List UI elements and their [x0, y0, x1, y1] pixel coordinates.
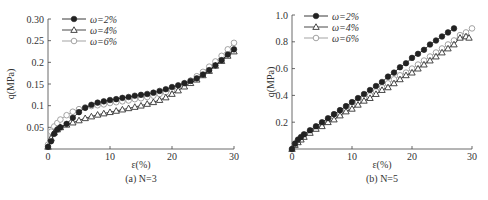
data-point-marker [409, 55, 415, 61]
data-point-marker [126, 94, 132, 100]
data-point-marker [169, 84, 175, 90]
data-point-marker [313, 123, 319, 129]
data-point-marker [138, 92, 144, 98]
legend-label: ω=2% [90, 14, 117, 25]
data-point-marker [113, 96, 119, 102]
data-point-marker [451, 26, 457, 32]
y-tick-label: 0.05 [27, 122, 45, 133]
data-point-marker [144, 91, 150, 97]
data-point-marker [379, 79, 385, 85]
legend-item: ω=2% [304, 11, 359, 22]
data-point-marker [361, 91, 367, 97]
y-tick-label: 0.1 [32, 100, 45, 111]
data-point-marker [433, 38, 439, 44]
data-point-marker [325, 115, 331, 121]
data-point-marker [82, 105, 88, 111]
data-point-marker [76, 109, 82, 115]
y-tick-label: 0.2 [32, 57, 45, 68]
legend-label: ω=6% [90, 36, 117, 47]
data-point-marker [206, 67, 212, 73]
data-point-marker [355, 95, 361, 101]
x-tick-label: 20 [167, 151, 177, 162]
data-point-marker [343, 103, 349, 109]
data-point-marker [385, 74, 391, 80]
panel-b-chart: 01020300.20.40.60.81.0 ω=2%ω=4%ω=6% ε(%)… [265, 10, 477, 186]
data-point-marker [373, 83, 379, 89]
panel-a-series [45, 40, 237, 150]
data-point-marker [213, 63, 219, 69]
x-tick-label: 10 [347, 151, 357, 162]
data-point-marker [64, 112, 70, 118]
data-point-marker [157, 88, 163, 94]
legend-item: ω=6% [62, 36, 117, 47]
data-point-marker [156, 97, 162, 103]
legend-label: ω=2% [332, 11, 359, 22]
figure: 01020300.050.10.150.20.250.30 ω=2%ω=4%ω=… [0, 0, 488, 200]
panel-b-legend: ω=2%ω=4%ω=6% [304, 11, 359, 44]
x-tick-label: 10 [105, 151, 115, 162]
data-point-marker [70, 109, 76, 115]
data-point-marker [391, 70, 397, 76]
x-tick-label: 30 [229, 151, 239, 162]
data-point-marker [89, 102, 95, 108]
panel-a-axes: 01020300.050.10.150.20.250.30 [27, 14, 240, 163]
panel-b-ylabel: q(MPa) [265, 67, 277, 98]
y-tick-label: 0.2 [276, 117, 289, 128]
data-point-marker [194, 76, 200, 82]
data-point-marker [415, 51, 421, 57]
data-point-marker [101, 99, 107, 105]
x-tick-label: 20 [407, 151, 417, 162]
data-point-marker [188, 78, 194, 84]
panel-a-legend: ω=2%ω=4%ω=6% [62, 14, 117, 47]
data-point-marker [445, 30, 451, 36]
data-point-marker [439, 34, 445, 40]
legend-item: ω=6% [304, 33, 359, 44]
data-point-marker [219, 57, 225, 63]
data-point-marker [231, 40, 237, 46]
y-tick-label: 0.25 [27, 35, 45, 46]
data-point-marker [231, 47, 237, 53]
data-point-marker [337, 107, 343, 113]
x-tick-label: 0 [46, 151, 51, 162]
data-point-marker [107, 97, 113, 103]
data-point-marker [367, 87, 373, 93]
data-point-marker [175, 83, 181, 89]
data-point-marker [421, 47, 427, 53]
legend-label: ω=6% [332, 33, 359, 44]
y-tick-label: 0.8 [276, 36, 289, 47]
data-point-marker [64, 121, 70, 127]
data-point-marker [427, 42, 433, 48]
panel-b-series [289, 26, 475, 152]
legend-item: ω=2% [62, 14, 117, 25]
panel-a-xlabel: ε(%) [131, 159, 150, 171]
data-point-marker [151, 90, 157, 96]
data-point-marker [120, 95, 126, 101]
data-point-marker [331, 111, 337, 117]
y-tick-label: 1.0 [276, 10, 289, 21]
legend-marker-icon [313, 35, 319, 41]
data-point-marker [45, 144, 51, 150]
data-point-marker [58, 117, 64, 123]
data-point-marker [307, 127, 313, 133]
legend-item: ω=4% [304, 22, 359, 33]
y-tick-label: 0.4 [276, 90, 289, 101]
data-point-marker [70, 115, 76, 121]
panel-a-chart: 01020300.050.10.150.20.250.30 ω=2%ω=4%ω=… [5, 14, 239, 186]
data-point-marker [163, 86, 169, 92]
legend-item: ω=4% [62, 25, 117, 36]
data-point-marker [225, 47, 231, 53]
data-point-marker [200, 72, 206, 78]
panel-b-caption: (b) N=5 [366, 173, 398, 185]
legend-label: ω=4% [332, 22, 359, 33]
data-point-marker [469, 26, 475, 32]
legend-label: ω=4% [90, 25, 117, 36]
data-point-marker [163, 94, 169, 100]
panel-a-caption: (a) N=3 [125, 173, 156, 185]
legend-marker-icon [313, 13, 319, 19]
y-tick-label: 0.15 [27, 79, 45, 90]
data-point-marker [132, 93, 138, 99]
data-point-marker [301, 131, 307, 137]
x-tick-label: 0 [290, 151, 295, 162]
data-point-marker [58, 125, 64, 131]
y-tick-label: 0.30 [27, 14, 45, 25]
